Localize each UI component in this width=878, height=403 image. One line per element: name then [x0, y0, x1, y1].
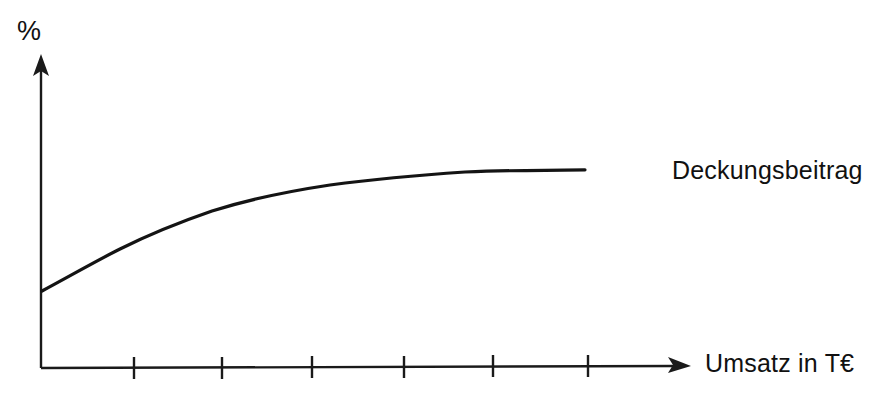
- chart-container: % Umsatz in T€ Deckungsbeitrag: [0, 0, 878, 403]
- deckungsbeitrag-curve: [42, 170, 585, 291]
- x-axis-line: [41, 366, 676, 368]
- series-label-deckungsbeitrag: Deckungsbeitrag: [672, 158, 863, 183]
- y-axis-label: %: [17, 18, 41, 45]
- x-axis-label: Umsatz in T€: [705, 351, 854, 376]
- chart-plot-area: [0, 0, 878, 403]
